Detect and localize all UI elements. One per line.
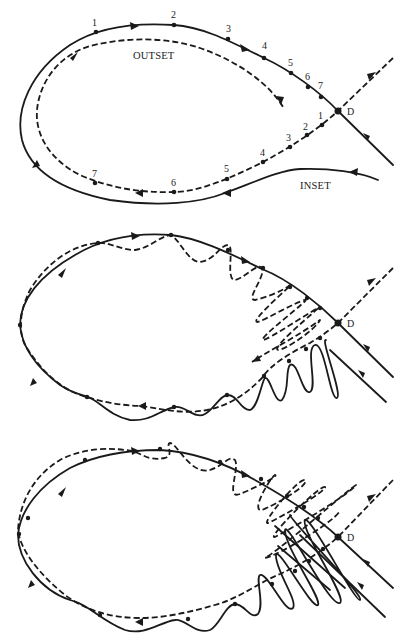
panel-3: D (17, 443, 393, 631)
outset-point-2: 2 (171, 9, 176, 20)
arrow-icon (70, 52, 78, 61)
arrow-icon (357, 582, 364, 590)
outset-point-3: 3 (226, 23, 231, 34)
inset-point-6: 6 (171, 177, 176, 188)
inset-dashed-curve (37, 39, 393, 192)
saddle-point-d (335, 320, 342, 327)
saddle-label-d: D (347, 106, 354, 117)
arrow-icon (349, 168, 358, 176)
arrow-icon (252, 355, 261, 362)
saddle-point-d (335, 108, 342, 115)
inset-point-2: 2 (303, 121, 308, 132)
arrow-icon (135, 618, 143, 626)
saddle-point-d (335, 534, 342, 541)
outset-solid-curve (18, 450, 393, 631)
inset-dashed-curve (18, 443, 393, 618)
outset-point-6: 6 (305, 71, 310, 82)
arrow-icon (130, 22, 139, 30)
inset-label: INSET (300, 180, 331, 191)
inset-point-1: 1 (318, 110, 323, 121)
arrow-icon (138, 402, 146, 410)
homoclinic-tangle-figure: 1 2 3 4 5 6 7 1 2 3 4 5 6 7 OUTSET INSET… (0, 0, 411, 642)
inset-point-4: 4 (260, 147, 265, 158)
arrow-icon (367, 494, 376, 502)
panel-2: D (18, 232, 393, 420)
outset-point-4: 4 (262, 40, 267, 51)
outset-point-5: 5 (288, 57, 293, 68)
arrow-icon (222, 189, 231, 197)
outset-label: OUTSET (133, 50, 175, 61)
arrow-icon (367, 278, 376, 286)
saddle-label-d: D (347, 318, 354, 329)
outset-point-7: 7 (318, 80, 323, 91)
inset-point-5: 5 (224, 163, 229, 174)
outset-solid-curve (20, 234, 393, 420)
panel-1: 1 2 3 4 5 6 7 1 2 3 4 5 6 7 OUTSET INSET… (20, 9, 393, 204)
saddle-label-d: D (347, 532, 354, 543)
inset-point-3: 3 (286, 132, 291, 143)
outset-point-1: 1 (92, 17, 97, 28)
arrow-icon (28, 580, 35, 588)
arrow-icon (131, 232, 140, 240)
arrow-icon (58, 487, 66, 497)
inset-point-7: 7 (92, 168, 97, 179)
arrow-icon (30, 378, 37, 386)
arrow-icon (58, 268, 66, 278)
